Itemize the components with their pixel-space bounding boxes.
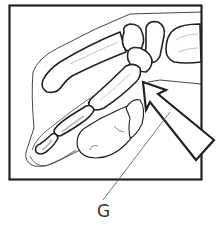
label-g: G [97,203,110,220]
anatomy-illustration [0,0,221,225]
